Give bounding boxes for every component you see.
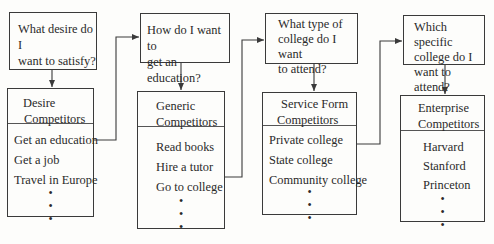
header-line: Generic [156,98,224,114]
connector-college-to-q3 [225,40,264,177]
dot: • [138,221,224,234]
question-line: Which specific [414,20,484,50]
ellipsis-dots: • • • [401,193,484,232]
question-box-service-form: What type of college do I want to attend… [265,13,358,64]
list-item: Private college [269,130,356,150]
list-item: Hire a tutor [156,157,224,177]
competitor-list: Harvard Stanford Princeton [401,131,484,195]
competitor-list: Read books Hire a tutor Go to college [138,127,224,197]
header-line: Competitors [418,116,484,132]
question-box-generic: How do I want to get an education? [140,13,230,63]
list-item: Community college [269,170,356,190]
list-item: Travel in Europe [14,170,93,190]
competitor-box-enterprise: Enterprise Competitors Harvard Stanford … [400,95,485,222]
header-line: Competitors [23,111,93,127]
question-line: What desire do I [18,21,96,53]
dot: • [401,219,484,232]
list-item: Get an education [14,130,93,150]
dot: • [8,213,93,226]
competitor-box-desire: Desire Competitors Get an education Get … [7,88,94,217]
dot: • [263,212,356,225]
competitor-list: Get an education Get a job Travel in Eur… [8,124,93,190]
list-item: Get a job [14,150,93,170]
question-line: college do I want [278,32,357,62]
list-item: Go to college [156,177,224,197]
question-line: to attend? [278,62,357,77]
list-item: State college [269,150,356,170]
competitor-box-service-form: Service Form Competitors Private college… [262,92,357,215]
list-item: Read books [156,137,224,157]
question-line: want to satisfy? [18,53,96,69]
question-line: What type of [278,17,357,32]
connector-education-to-q2 [94,37,139,140]
competitor-type-header: Generic Competitors [138,92,224,127]
ellipsis-dots: • • • [263,186,356,225]
list-item: Harvard [423,138,484,157]
header-line: Desire [23,95,93,111]
question-line: How do I want to [147,22,229,54]
list-item: Stanford [423,157,484,176]
competitor-box-generic: Generic Competitors Read books Hire a tu… [137,91,225,229]
question-line: get an education? [147,54,229,86]
question-line: college do I [414,50,484,65]
header-line: Competitors [156,114,224,130]
question-line: want to attend? [414,65,484,95]
competitor-list: Private college State college Community … [263,126,356,190]
ellipsis-dots: • • • [8,187,93,226]
competitor-type-header: Service Form Competitors [263,93,356,126]
ellipsis-dots: • • • [138,195,224,234]
connector-private-to-q4 [357,41,402,144]
competitor-type-header: Enterprise Competitors [401,96,484,131]
header-line: Service Form [277,96,356,112]
header-line: Enterprise [418,100,484,116]
question-box-enterprise: Which specific college do I want to atte… [403,15,485,65]
question-box-desire: What desire do I want to satisfy? [9,12,97,70]
competitor-type-header: Desire Competitors [8,89,93,124]
